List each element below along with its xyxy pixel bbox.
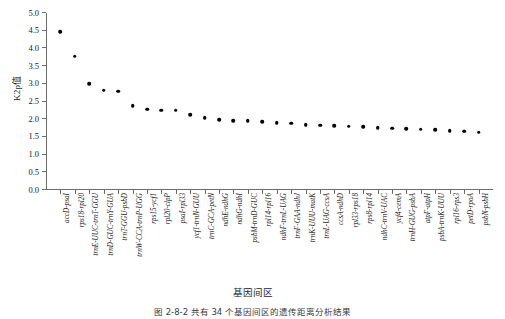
x-axis-tick-label-text: ccsA-ndhD [338,193,345,225]
x-axis-tick-label-text: rps15-ycf1 [151,193,158,224]
x-axis-tick-labels: accD-psaIrps18-rpl20trnE-UUC-trnT-GGUtrn… [46,193,493,281]
x-axis-tick-label: rpl16-rps3 [453,162,460,193]
x-axis-tick-label: trnE-UUC-trnT-GGU [93,130,100,193]
x-axis-tick-label-text: trnE-UUC-trnT-GGU [93,193,100,256]
y-axis-title: K2p值 [10,76,23,101]
data-point [188,113,192,117]
y-axis-tick: 1.0 [42,154,46,155]
x-axis-tick-label: trnW-CCA-trnP-UGG [136,129,143,193]
y-axis-tick: 0.0 [42,189,46,190]
x-axis-tick-label: ndhC-trnV-UAC [381,146,388,193]
data-point [390,127,394,131]
x-axis-tick-label-text: ndhC-trnV-UAC [381,193,388,240]
y-axis-tick-label: 2.0 [28,114,39,123]
data-point [102,88,106,92]
x-axis-tick-label-text: ndhE-ndhG [223,193,230,227]
x-axis-tick-label-text: trnL-UAG-ccsA [324,193,331,239]
data-point [160,109,164,113]
x-axis-tick-label-text: rps18-rpl20 [78,193,85,227]
x-axis-tick-label-text: petD-rpoA [468,193,475,224]
x-axis-tick-label-text: rpl16-rps3 [453,193,460,224]
x-axis-title: 基因间区 [0,285,505,299]
x-axis-tick-label: rps8-rpl14 [367,162,374,193]
data-point [260,120,264,124]
x-axis-tick-label-text: trnT-GGU-psbD [122,193,129,240]
x-axis-tick-label-text: accD-psaI [64,193,71,223]
x-axis-tick-label-text: trnC-GCA-petN [208,193,215,239]
data-point [376,126,380,130]
x-axis-tick-label-text: ycf4-cemA [396,193,403,223]
x-axis-tick-label: ycf1-trnN-GUU [194,147,201,193]
data-point [217,118,221,122]
data-point [203,116,207,120]
x-axis-tick-label-text: ndhF-trnL-UAG [280,193,287,240]
x-axis-tick-label-text: trnK-UUU-matK [309,193,316,242]
x-axis-tick-label-text: trnD-GUC-trnY-GUA [107,193,114,256]
x-axis-tick-label: ccsA-ndhD [338,161,345,193]
figure-caption: 图 2-8-2 共有 34 个基因间区的遗传距离分析结果 [0,305,505,317]
x-axis-tick-label-text: atpF-atpH [424,193,431,223]
y-axis-tick: 1.5 [42,136,46,137]
data-point [477,131,481,135]
y-axis-tick: 5.0 [42,12,46,13]
data-point [448,129,452,133]
x-axis-tick-label-text: trnW-CCA-trnP-UGG [136,193,143,257]
x-axis-tick-label-text: psbN-psbH [482,193,489,225]
data-point [87,82,91,86]
x-axis-tick-label: trnL-UAG-ccsA [324,147,331,193]
figure-container: K2p值 0.00.51.01.52.02.53.03.54.04.55.0 a… [0,0,505,319]
data-point [174,109,178,113]
data-point [462,129,466,133]
data-point [59,30,63,34]
data-point [73,54,77,58]
data-point [347,124,351,128]
y-axis-tick-label: 0.5 [28,168,39,177]
y-axis-tick-label: 3.0 [28,79,39,88]
y-axis-tick: 3.5 [42,65,46,66]
data-point [145,108,149,112]
data-point [275,121,279,125]
x-axis-tick-label: accD-psaI [64,163,71,193]
x-axis-tick-label-text: ndhG-ndhI [237,193,244,225]
x-axis-tick-label: rpl20-clpP [165,162,172,193]
data-point [361,125,365,129]
data-point [419,127,423,131]
x-axis-tick-label: ndhF-trnL-UAG [280,146,287,193]
x-axis-tick-label: rpl33-rps18 [352,159,359,193]
data-point [405,127,409,131]
y-axis-tick-label: 2.5 [28,97,39,106]
y-axis-tick-label: 4.0 [28,44,39,53]
x-axis-tick-label-text: psbA-trnK-UUU [439,193,446,241]
x-axis-tick-label: psbM-trnD-GUC [251,143,258,193]
x-axis-tick-label: trnF-GAA-ndhJ [295,147,302,193]
y-axis-tick: 3.0 [42,83,46,84]
x-axis-tick-label: trnD-GUC-trnY-GUA [107,130,114,193]
y-axis-tick-label: 0.0 [28,185,39,194]
data-point [131,104,135,108]
x-axis-tick-label: trnT-GGU-psbD [122,146,129,193]
x-axis-tick-label: trnC-GCA-petN [208,147,215,193]
x-axis-tick-label-text: psaI-rpl33 [179,193,186,223]
x-axis-tick-label: rps18-rpl20 [78,159,85,193]
x-axis-tick-label: rpl14-rpl16 [266,159,273,193]
y-axis-tick: 4.0 [42,47,46,48]
x-axis-tick-label: rps15-ycf1 [151,162,158,193]
data-point [333,124,337,128]
y-axis-line [46,13,47,190]
x-axis-tick-label-text: psbM-trnD-GUC [251,193,258,243]
y-axis-tick: 0.5 [42,171,46,172]
y-axis-tick-label: 1.0 [28,150,39,159]
y-axis-tick-label: 3.5 [28,61,39,70]
x-axis-tick-label: psbA-trnK-UUU [439,145,446,193]
x-axis-tick-label-text: ycf1-trnN-GUU [194,193,201,239]
y-axis-tick: 4.5 [42,30,46,31]
y-axis-tick: 2.5 [42,101,46,102]
data-point [246,119,250,123]
x-axis-tick-label-text: rpl20-clpP [165,193,172,224]
data-point [116,89,120,93]
y-axis-tick-label: 1.5 [28,132,39,141]
data-point [232,119,236,123]
x-axis-tick-label-text: rps8-rpl14 [367,193,374,224]
x-axis-tick-label: ndhG-ndhI [237,161,244,193]
x-axis-tick-label-text: rpl33-rps18 [352,193,359,227]
